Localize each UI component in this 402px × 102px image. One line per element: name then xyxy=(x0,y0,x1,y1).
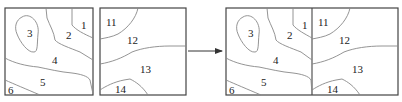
label-region-6: 6 xyxy=(8,84,14,96)
label-region-4: 4 xyxy=(52,54,58,66)
label-region-1: 1 xyxy=(81,19,87,31)
merged-label-region-2: 2 xyxy=(287,29,293,41)
label-region-14: 14 xyxy=(115,83,127,95)
merged-label-region-6: 6 xyxy=(229,84,235,96)
label-region-2: 2 xyxy=(66,29,72,41)
left-tile: 1 2 3 4 5 6 xyxy=(5,8,93,96)
contour-4-5 xyxy=(5,58,93,94)
right-tile: 11 12 13 14 xyxy=(100,8,186,95)
merged-contour-4-5 xyxy=(226,58,312,94)
merged-label-region-12: 12 xyxy=(339,34,350,46)
merged-label-region-5: 5 xyxy=(261,76,267,88)
merged-label-region-4: 4 xyxy=(273,54,279,66)
label-region-5: 5 xyxy=(40,76,46,88)
merged-label-region-13: 13 xyxy=(352,63,364,75)
merged-label-region-11: 11 xyxy=(318,16,329,28)
label-region-3: 3 xyxy=(27,27,33,39)
label-region-13: 13 xyxy=(140,63,152,75)
merged-label-region-1: 1 xyxy=(302,19,308,31)
label-region-12: 12 xyxy=(127,34,138,46)
merged-label-region-3: 3 xyxy=(248,27,254,39)
merged-label-region-14: 14 xyxy=(327,83,339,95)
merged-tile: 1 2 3 4 5 6 11 12 13 14 xyxy=(226,8,398,96)
label-region-11: 11 xyxy=(106,16,117,28)
merged-contour-12-13 xyxy=(312,46,398,64)
diagram: 1 2 3 4 5 6 11 12 13 14 xyxy=(0,0,402,102)
contour-12-13 xyxy=(100,46,186,64)
